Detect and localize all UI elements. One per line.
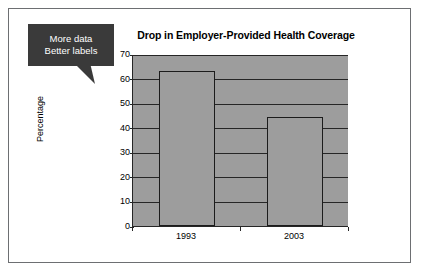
chart-title: Drop in Employer-Provided Health Coverag…: [121, 29, 371, 41]
callout-text: More data Better labels: [28, 24, 114, 66]
x-tick-mark: [348, 227, 349, 231]
y-tick-label: 50: [108, 99, 130, 108]
callout-balloon[interactable]: More data Better labels: [28, 24, 114, 66]
bar-1993[interactable]: [159, 71, 215, 226]
plot-area[interactable]: [132, 55, 348, 227]
gridline: [133, 55, 348, 56]
y-tick-label: 60: [108, 75, 130, 84]
y-axis-title: Percentage: [35, 79, 45, 159]
x-tick-label-2003: 2003: [240, 231, 348, 241]
callout-line-1: More data: [50, 33, 93, 45]
x-tick-label-1993: 1993: [132, 231, 240, 241]
y-tick-label: 40: [108, 124, 130, 133]
bar-2003[interactable]: [267, 117, 323, 226]
callout-line-2: Better labels: [45, 45, 98, 57]
y-tick-label: 10: [108, 197, 130, 206]
x-tick-mark: [132, 227, 133, 231]
y-tick-label: 30: [108, 148, 130, 157]
y-tick-label: 0: [108, 222, 130, 231]
y-tick-label: 20: [108, 173, 130, 182]
x-axis-tick-labels: 19932003: [132, 231, 348, 247]
y-axis-tick-labels: 010203040506070: [104, 55, 130, 227]
slide-frame: Drop in Employer-Provided Health Coverag…: [8, 8, 411, 263]
